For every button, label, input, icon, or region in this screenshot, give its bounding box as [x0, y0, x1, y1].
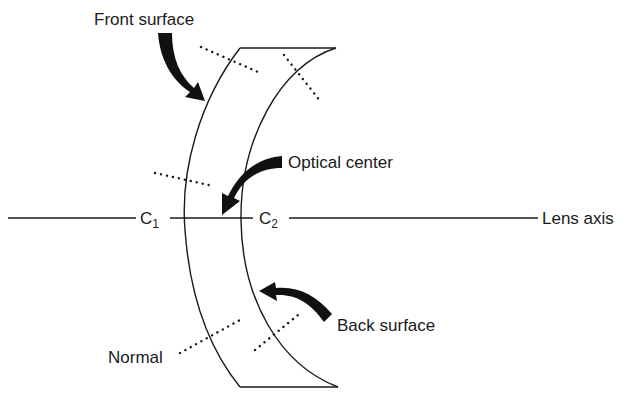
lens-axis-label: Lens axis — [542, 209, 614, 228]
arrow-shaft — [259, 282, 332, 322]
back-surface-label: Back surface — [337, 316, 435, 335]
c1-subscript: 1 — [152, 217, 159, 231]
c2-main: C — [259, 209, 271, 228]
lens-diagram: Front surface Optical center Lens axis B… — [0, 0, 636, 398]
c1-main: C — [140, 209, 152, 228]
optical-center-label: Optical center — [288, 153, 393, 172]
c1-label: C1 — [140, 209, 159, 231]
arrow-shaft — [158, 33, 205, 101]
arrow-shaft — [222, 156, 282, 215]
optical-center-arrow — [222, 156, 282, 215]
front-surface-label: Front surface — [94, 10, 194, 29]
c2-subscript: 2 — [271, 217, 278, 231]
normal-dotted-line-top-front — [201, 47, 258, 72]
normal-dotted-line-mid-front — [155, 173, 213, 186]
normal-dotted-line-bottom-back — [255, 315, 298, 350]
front-surface-arrow — [158, 33, 205, 101]
c2-label: C2 — [259, 209, 278, 231]
normal-label: Normal — [108, 348, 163, 367]
back-surface-arrow — [259, 282, 332, 322]
